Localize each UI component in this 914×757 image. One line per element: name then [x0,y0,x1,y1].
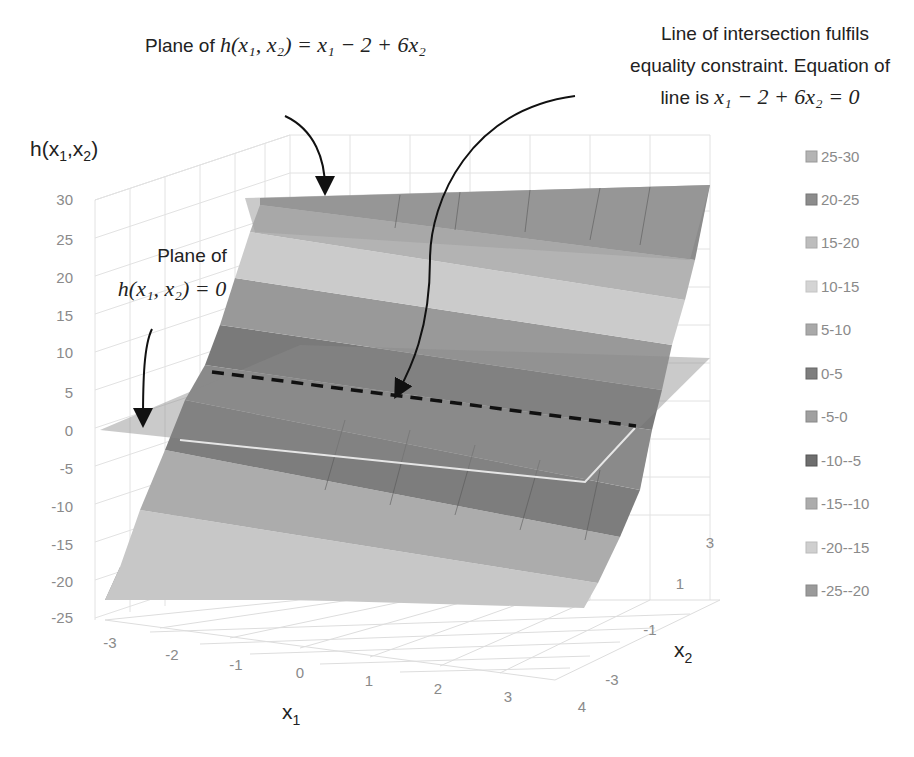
x2-axis-title: x2 [674,638,693,666]
annotation-zero-plane-line2: h(x₁, x₂) = 0 [118,276,226,301]
legend-item: 20-25 [806,191,859,208]
svg-text:-1: -1 [643,621,656,638]
surface-chart: Plane of h(x₁, x₂) = x₁ − 2 + 6x₂ Line o… [0,0,914,757]
legend-item: -15--10 [806,495,869,512]
svg-text:-1: -1 [229,656,242,673]
svg-text:20: 20 [56,269,73,286]
svg-text:-3: -3 [605,671,618,688]
z-axis-title: h(x1,x2) [30,137,98,164]
legend-item: 15-20 [806,234,859,251]
svg-text:-25--20: -25--20 [821,582,869,599]
svg-text:-5-0: -5-0 [821,408,848,425]
svg-text:25-30: 25-30 [821,148,859,165]
svg-text:1: 1 [676,575,684,592]
svg-text:30: 30 [56,191,73,208]
svg-text:2: 2 [434,680,442,697]
svg-text:15: 15 [56,307,73,324]
svg-text:-15: -15 [51,536,73,553]
svg-text:-20--15: -20--15 [821,539,869,556]
svg-text:-20: -20 [51,573,73,590]
svg-text:0-5: 0-5 [821,365,843,382]
floor-grid [105,600,720,680]
legend: 25-30 20-25 15-20 10-15 5-10 0-5 -5-0 - [806,148,869,599]
svg-text:-3: -3 [103,634,116,651]
svg-text:-2: -2 [165,646,178,663]
svg-text:3: 3 [504,688,512,705]
legend-item: -5-0 [806,408,848,425]
arrow-top-plane [285,116,325,188]
svg-text:0: 0 [296,664,304,681]
svg-text:10: 10 [56,344,73,361]
legend-item: -10--5 [806,452,861,469]
svg-text:15-20: 15-20 [821,234,859,251]
annotation-intersection-line2: equality constraint. Equation of [630,55,891,76]
z-axis-ticks: 30 25 20 15 10 5 0 -5 -10 -15 -20 -25 [51,191,73,626]
svg-text:-10: -10 [51,498,73,515]
legend-item: 25-30 [806,148,859,165]
svg-text:5: 5 [65,384,73,401]
annotation-intersection-line1: Line of intersection fulfils [661,23,869,44]
legend-item: 0-5 [806,365,843,382]
annotation-intersection-line3: line is x₁ − 2 + 6x₂ = 0 [660,84,859,109]
svg-text:10-15: 10-15 [821,278,859,295]
legend-item: 5-10 [806,321,851,338]
svg-text:-15--10: -15--10 [821,495,869,512]
svg-text:-25: -25 [51,609,73,626]
svg-text:5-10: 5-10 [821,321,851,338]
svg-text:1: 1 [365,672,373,689]
svg-text:25: 25 [56,231,73,248]
svg-text:-5: -5 [60,460,73,477]
svg-text:0: 0 [65,422,73,439]
legend-item: -20--15 [806,539,869,556]
x1-axis-title: x1 [282,700,301,728]
svg-text:-10--5: -10--5 [821,452,861,469]
svg-text:3: 3 [706,534,714,551]
svg-text:20-25: 20-25 [821,191,859,208]
arrow-zero-plane [143,329,152,420]
annotation-top-plane: Plane of h(x₁, x₂) = x₁ − 2 + 6x₂ [145,32,426,57]
legend-item: -25--20 [806,582,869,599]
svg-text:4: 4 [578,698,586,715]
annotation-zero-plane-line1: Plane of [157,245,227,266]
legend-item: 10-15 [806,278,859,295]
